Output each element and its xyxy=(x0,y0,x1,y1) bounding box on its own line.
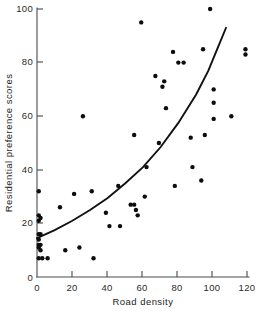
y-tick-label-100: 100 xyxy=(16,3,33,14)
data-point xyxy=(211,87,215,91)
data-point xyxy=(91,256,95,260)
y-tick-labels: 100 80 60 40 20 0 xyxy=(16,3,33,283)
plot-canvas: 100 80 60 40 20 0 0 20 40 60 80 100 120 … xyxy=(0,0,269,311)
data-point xyxy=(171,50,175,54)
data-point xyxy=(211,117,215,121)
data-point xyxy=(176,60,180,64)
data-point xyxy=(160,85,164,89)
data-point xyxy=(37,189,41,193)
x-axis-title: Road density xyxy=(113,296,174,307)
y-tick-label-60: 60 xyxy=(22,110,33,121)
y-tick-label-40: 40 xyxy=(22,164,33,175)
data-point xyxy=(136,213,140,217)
x-tick-label-20: 20 xyxy=(66,282,77,293)
data-point xyxy=(63,248,67,252)
data-point xyxy=(37,237,41,241)
data-point xyxy=(201,47,205,51)
data-point xyxy=(38,232,42,236)
x-tick-label-0: 0 xyxy=(34,282,40,293)
data-point xyxy=(38,216,42,220)
data-point xyxy=(45,256,49,260)
data-point xyxy=(90,189,94,193)
data-point xyxy=(58,205,62,209)
x-tick-label-80: 80 xyxy=(171,282,182,293)
data-point xyxy=(229,114,233,118)
data-point xyxy=(77,245,81,249)
data-point xyxy=(72,192,76,196)
data-point xyxy=(132,133,136,137)
data-point xyxy=(116,184,120,188)
data-point xyxy=(211,101,215,105)
data-point xyxy=(243,47,247,51)
data-point xyxy=(173,184,177,188)
data-point xyxy=(139,20,143,24)
data-point xyxy=(38,248,42,252)
x-tick-labels: 0 20 40 60 80 100 120 xyxy=(34,282,255,293)
data-point xyxy=(143,194,147,198)
data-point xyxy=(132,202,136,206)
data-point xyxy=(81,114,85,118)
y-tick-label-80: 80 xyxy=(22,56,33,67)
data-point xyxy=(181,60,185,64)
y-tick-label-0: 0 xyxy=(27,272,33,283)
x-tick-label-60: 60 xyxy=(136,282,147,293)
data-point xyxy=(208,7,212,11)
data-point xyxy=(144,165,148,169)
data-point xyxy=(164,106,168,110)
data-point xyxy=(40,256,44,260)
scatter-plot-figure: 100 80 60 40 20 0 0 20 40 60 80 100 120 … xyxy=(0,0,269,311)
x-tick-label-40: 40 xyxy=(101,282,112,293)
data-point xyxy=(199,178,203,182)
x-tick-label-100: 100 xyxy=(204,282,221,293)
data-point xyxy=(243,52,247,56)
y-tick-label-20: 20 xyxy=(22,217,33,228)
data-point xyxy=(104,210,108,214)
data-point xyxy=(162,79,166,83)
data-point xyxy=(118,224,122,228)
data-point xyxy=(203,133,207,137)
x-tick-marks xyxy=(72,271,247,277)
data-point xyxy=(190,165,194,169)
data-point xyxy=(189,135,193,139)
y-axis-title: Residential preference scores xyxy=(3,74,14,213)
data-point xyxy=(134,208,138,212)
data-point xyxy=(157,141,161,145)
data-point xyxy=(153,74,157,78)
x-tick-label-120: 120 xyxy=(239,282,256,293)
data-point xyxy=(107,224,111,228)
